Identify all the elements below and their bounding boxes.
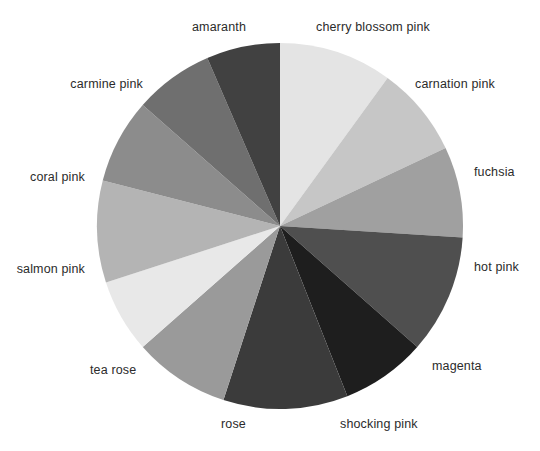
- pie-slice-label: fuchsia: [474, 166, 515, 179]
- pie-slice-group: [97, 43, 463, 409]
- pie-slice-label: salmon pink: [17, 263, 85, 276]
- pie-slice-label: magenta: [432, 360, 482, 373]
- pie-slice-label: cherry blossom pink: [316, 21, 430, 34]
- pie-chart-figure: cherry blossom pinkcarnation pinkfuchsia…: [0, 0, 540, 451]
- pie-slice-label: coral pink: [30, 171, 85, 184]
- pie-slice-label: carmine pink: [70, 78, 143, 91]
- pie-slice-label: rose: [221, 418, 246, 431]
- pie-slice-label: hot pink: [474, 261, 519, 274]
- pie-slice-label: tea rose: [90, 364, 136, 377]
- pie-chart-canvas: [0, 0, 540, 451]
- pie-slice-label: carnation pink: [415, 78, 495, 91]
- pie-slice-label: shocking pink: [340, 418, 418, 431]
- pie-slice-label: amaranth: [192, 21, 246, 34]
